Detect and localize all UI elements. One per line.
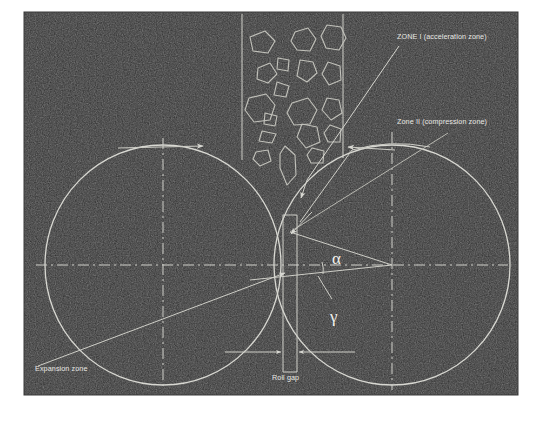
alpha-symbol: α [332,249,341,268]
zone-i-label: ZONE I (acceleration zone) [397,32,487,41]
gamma-symbol: γ [329,307,338,326]
roller-compactor-diagram: ZONE I (acceleration zone) Zone II (comp… [0,0,543,422]
expansion-zone-label: Expansion zone [35,364,88,373]
zone-ii-label: Zone II (compression zone) [397,117,487,126]
figure-root: ZONE I (acceleration zone) Zone II (comp… [0,0,543,422]
photo-frame [24,12,518,395]
roll-gap-label: Roll gap [272,373,299,382]
